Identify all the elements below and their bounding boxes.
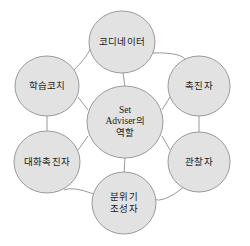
- node-atmosphere-creator-line-0: 분위기: [110, 191, 137, 202]
- node-facilitator-line-0: 촉진자: [185, 80, 212, 91]
- spoke-center-observer: [162, 136, 170, 150]
- node-observer-label: 관찰자: [185, 156, 212, 167]
- arc-observer-atmosphere: [153, 187, 184, 200]
- node-conversation-facilitator[interactable]: 대화촉진자: [14, 131, 80, 193]
- arc-coordinator-facilitator: [152, 53, 186, 61]
- node-facilitator-label: 촉진자: [185, 80, 212, 91]
- node-learning-coach[interactable]: 학습코치: [15, 56, 79, 116]
- node-coordinator-label: 코디네이터: [99, 36, 145, 47]
- spoke-center-conversation: [78, 136, 88, 150]
- center-node-group: SetAdviser의역할: [87, 86, 163, 158]
- node-observer-line-0: 관찰자: [185, 156, 212, 167]
- center-node-set-adviser-role[interactable]: SetAdviser의역할: [87, 86, 163, 158]
- node-conversation-facilitator-label: 대화촉진자: [24, 156, 70, 167]
- node-learning-coach-line-0: 학습코치: [29, 80, 65, 91]
- node-coordinator-line-0: 코디네이터: [99, 36, 145, 47]
- node-learning-coach-label: 학습코치: [29, 80, 65, 91]
- center-node-set-adviser-role-line-1: Adviser의: [105, 116, 144, 126]
- spoke-center-facilitator: [162, 97, 170, 110]
- arc-atmosphere-conversation: [64, 189, 94, 194]
- role-diagram: 코디네이터촉진자관찰자분위기조성자대화촉진자학습코치 SetAdviser의역할: [0, 0, 250, 246]
- center-node-set-adviser-role-line-0: Set: [119, 105, 132, 115]
- node-atmosphere-creator[interactable]: 분위기조성자: [92, 172, 156, 234]
- node-facilitator[interactable]: 촉진자: [168, 56, 230, 116]
- node-conversation-facilitator-line-0: 대화촉진자: [24, 156, 70, 167]
- spoke-center-learning: [78, 97, 88, 110]
- spoke-center-atmosphere: [124, 157, 125, 173]
- diagram-container: 코디네이터촉진자관찰자분위기조성자대화촉진자학습코치 SetAdviser의역할: [0, 0, 250, 246]
- node-observer[interactable]: 관찰자: [168, 132, 230, 192]
- node-atmosphere-creator-label: 분위기조성자: [110, 191, 137, 214]
- center-node-set-adviser-role-line-2: 역할: [116, 128, 134, 138]
- node-coordinator[interactable]: 코디네이터: [89, 11, 155, 73]
- node-atmosphere-creator-line-1: 조성자: [110, 203, 137, 214]
